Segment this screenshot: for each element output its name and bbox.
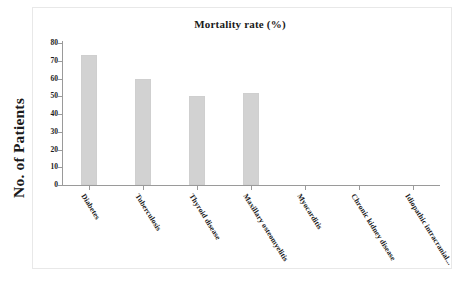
y-axis-tick-mark bbox=[58, 43, 62, 44]
y-axis-tick-mark bbox=[58, 79, 62, 80]
x-axis-tick-mark bbox=[305, 186, 306, 190]
x-axis-tick-mark bbox=[197, 186, 198, 190]
y-axis-tick-mark bbox=[58, 185, 62, 186]
y-axis-tick-label: 70 bbox=[36, 57, 58, 65]
y-axis-tick-mark bbox=[58, 150, 62, 151]
y-axis-tick-mark bbox=[58, 132, 62, 133]
x-axis-tick-mark bbox=[143, 186, 144, 190]
bar-chart-figure: Mortality rate (%) No. of Patients 01020… bbox=[0, 0, 460, 297]
plot-area bbox=[62, 43, 440, 185]
bar bbox=[135, 79, 151, 186]
x-axis-tick-mark bbox=[359, 186, 360, 190]
x-axis-tick-mark bbox=[413, 186, 414, 190]
x-axis-tick-mark bbox=[89, 186, 90, 190]
y-axis-tick-label: 60 bbox=[36, 75, 58, 83]
bar bbox=[243, 93, 259, 185]
bar bbox=[189, 96, 205, 185]
y-axis-title: No. of Patients bbox=[10, 88, 28, 208]
x-axis-tick-mark bbox=[251, 186, 252, 190]
chart-title: Mortality rate (%) bbox=[150, 18, 330, 30]
y-axis-tick-mark bbox=[58, 61, 62, 62]
caption-strip bbox=[0, 276, 460, 296]
y-axis-tick-mark bbox=[58, 96, 62, 97]
y-axis-tick-label: 0 bbox=[36, 181, 58, 189]
y-axis-tick-mark bbox=[58, 167, 62, 168]
y-axis-tick-label: 50 bbox=[36, 93, 58, 101]
bar bbox=[81, 55, 97, 185]
y-axis-tick-label: 40 bbox=[36, 110, 58, 118]
y-axis-tick-label: 10 bbox=[36, 164, 58, 172]
y-axis-tick-label: 30 bbox=[36, 128, 58, 136]
y-axis-tick-label: 20 bbox=[36, 146, 58, 154]
y-axis-tick-labels: 01020304050607080 bbox=[34, 0, 58, 297]
y-axis-tick-mark bbox=[58, 114, 62, 115]
y-axis-tick-label: 80 bbox=[36, 39, 58, 47]
